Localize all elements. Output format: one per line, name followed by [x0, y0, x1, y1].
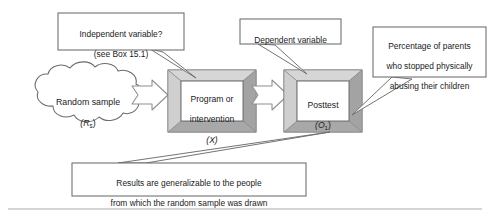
node-program-intervention-shape: [168, 70, 256, 132]
node-random-sample-shape: [35, 62, 141, 122]
diagram-canvas: Random sample (Rs) Program or interventi…: [0, 0, 490, 218]
callout-outcome-measure-shape: [352, 27, 486, 115]
callout-generalizability-shape: [72, 132, 330, 196]
node-posttest-shape: [284, 70, 362, 132]
connector-program-to-posttest: [252, 80, 288, 110]
callout-dependent-variable-shape: [240, 19, 341, 74]
diagram-graphics-layer: [0, 0, 490, 218]
